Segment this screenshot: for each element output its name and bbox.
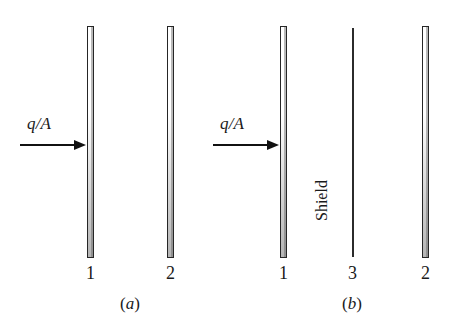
panel-b-plate-1-label: 1 [268, 264, 299, 282]
panel-b-caption: (b) [322, 295, 382, 312]
panel-a-plate-2-label: 2 [155, 264, 186, 282]
panel-a-plate-2 [167, 26, 174, 258]
panel-b-caption-paren-close: ) [356, 294, 362, 313]
panel-a-caption: (a) [100, 295, 160, 312]
panel-b-plate-2 [422, 26, 429, 258]
panel-a-heat-flux-arrow [20, 139, 86, 151]
panel-b-plate-2-label: 2 [410, 264, 441, 282]
arrow-shaft [213, 144, 269, 146]
figure-canvas: q/A 1 2 (a) q/A Shield 1 [0, 0, 455, 324]
panel-b-shield-label-number: 3 [337, 264, 368, 282]
arrow-head [267, 140, 279, 150]
arrow-shaft [20, 144, 76, 146]
panel-a-flux-label: q/A [27, 115, 51, 132]
panel-a-caption-paren-close: ) [134, 294, 140, 313]
panel-b-plate-1 [280, 26, 287, 258]
panel-b-caption-letter: b [348, 294, 357, 313]
panel-b-shield-label: Shield [314, 180, 330, 221]
panel-a-plate-1 [87, 26, 94, 258]
panel-b-flux-label: q/A [220, 115, 244, 132]
panel-a-caption-letter: a [126, 294, 135, 313]
panel-b-shield-line [352, 28, 354, 257]
panel-a-plate-1-label: 1 [75, 264, 106, 282]
panel-b-heat-flux-arrow [213, 139, 279, 151]
arrow-head [74, 140, 86, 150]
